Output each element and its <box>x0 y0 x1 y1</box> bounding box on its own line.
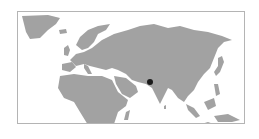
landmass-australia <box>198 122 216 124</box>
landmass-british-isles <box>64 45 70 56</box>
world-map <box>18 12 245 124</box>
landmass-sri-lanka <box>164 105 166 109</box>
location-marker <box>147 79 153 85</box>
landmass-iceland <box>59 29 67 34</box>
landmass-sumatra <box>186 104 200 118</box>
landmass-japan <box>214 56 224 76</box>
landmass-borneo <box>204 98 216 110</box>
landmass-madagascar <box>124 110 130 120</box>
map-frame <box>17 11 245 124</box>
landmass-greenland <box>22 15 60 39</box>
landmass-philippines <box>214 84 220 96</box>
landmass-new-guinea <box>214 114 240 122</box>
